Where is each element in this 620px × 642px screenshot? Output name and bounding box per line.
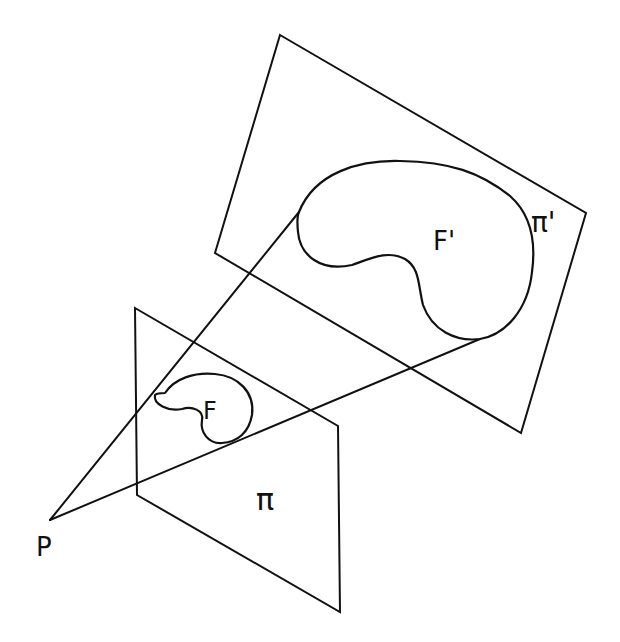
- diagram-canvas: P F F' π π': [0, 0, 620, 642]
- projection-diagram: P F F' π π': [0, 0, 620, 642]
- figure-f-prime-outline: [297, 161, 533, 340]
- label-plane-pi: π: [256, 482, 274, 517]
- label-figure-f-prime: F': [433, 226, 455, 256]
- projection-ray-upper: [50, 212, 299, 520]
- plane-pi: [135, 308, 340, 612]
- label-center-p: P: [36, 532, 52, 562]
- label-figure-f: F: [203, 397, 217, 425]
- label-plane-pi-prime: π': [531, 206, 556, 239]
